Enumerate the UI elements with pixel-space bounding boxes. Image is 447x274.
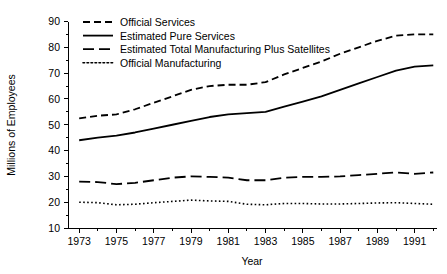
x-axis-title: Year (241, 255, 263, 267)
x-tick-label: 1979 (179, 235, 203, 247)
y-tick-label: 20 (48, 196, 60, 208)
x-tick-label: 1989 (366, 235, 390, 247)
y-tick-label: 60 (48, 93, 60, 105)
y-axis-ticks: 102030405060708090 (48, 15, 68, 234)
line-chart: 102030405060708090 197319751977197919811… (0, 0, 447, 274)
series-line-2 (79, 173, 433, 185)
y-tick-label: 80 (48, 41, 60, 53)
y-tick-label: 70 (48, 67, 60, 79)
y-tick-label: 40 (48, 144, 60, 156)
x-tick-label: 1987 (328, 235, 352, 247)
chart-legend: Official ServicesEstimated Pure Services… (83, 16, 330, 69)
chart-container: 102030405060708090 197319751977197919811… (0, 0, 447, 274)
x-tick-label: 1973 (68, 235, 92, 247)
legend-label-0: Official Services (120, 16, 195, 28)
x-tick-label: 1981 (217, 235, 241, 247)
x-tick-label: 1975 (105, 235, 129, 247)
y-tick-label: 30 (48, 170, 60, 182)
x-axis-ticks: 1973197519771979198119831985198719891991 (68, 228, 434, 247)
x-tick-label: 1983 (254, 235, 278, 247)
series-line-1 (79, 65, 433, 140)
y-tick-label: 50 (48, 119, 60, 131)
x-tick-label: 1985 (291, 235, 315, 247)
legend-label-1: Estimated Pure Services (120, 30, 235, 42)
legend-label-2: Estimated Total Manufacturing Plus Satel… (120, 43, 330, 55)
series-line-3 (79, 200, 433, 205)
y-tick-label: 10 (48, 222, 60, 234)
y-tick-label: 90 (48, 15, 60, 27)
x-tick-label: 1977 (142, 235, 166, 247)
x-tick-label: 1991 (403, 235, 427, 247)
legend-label-3: Official Manufacturing (120, 57, 222, 69)
y-axis-title: Millions of Employees (5, 74, 17, 176)
